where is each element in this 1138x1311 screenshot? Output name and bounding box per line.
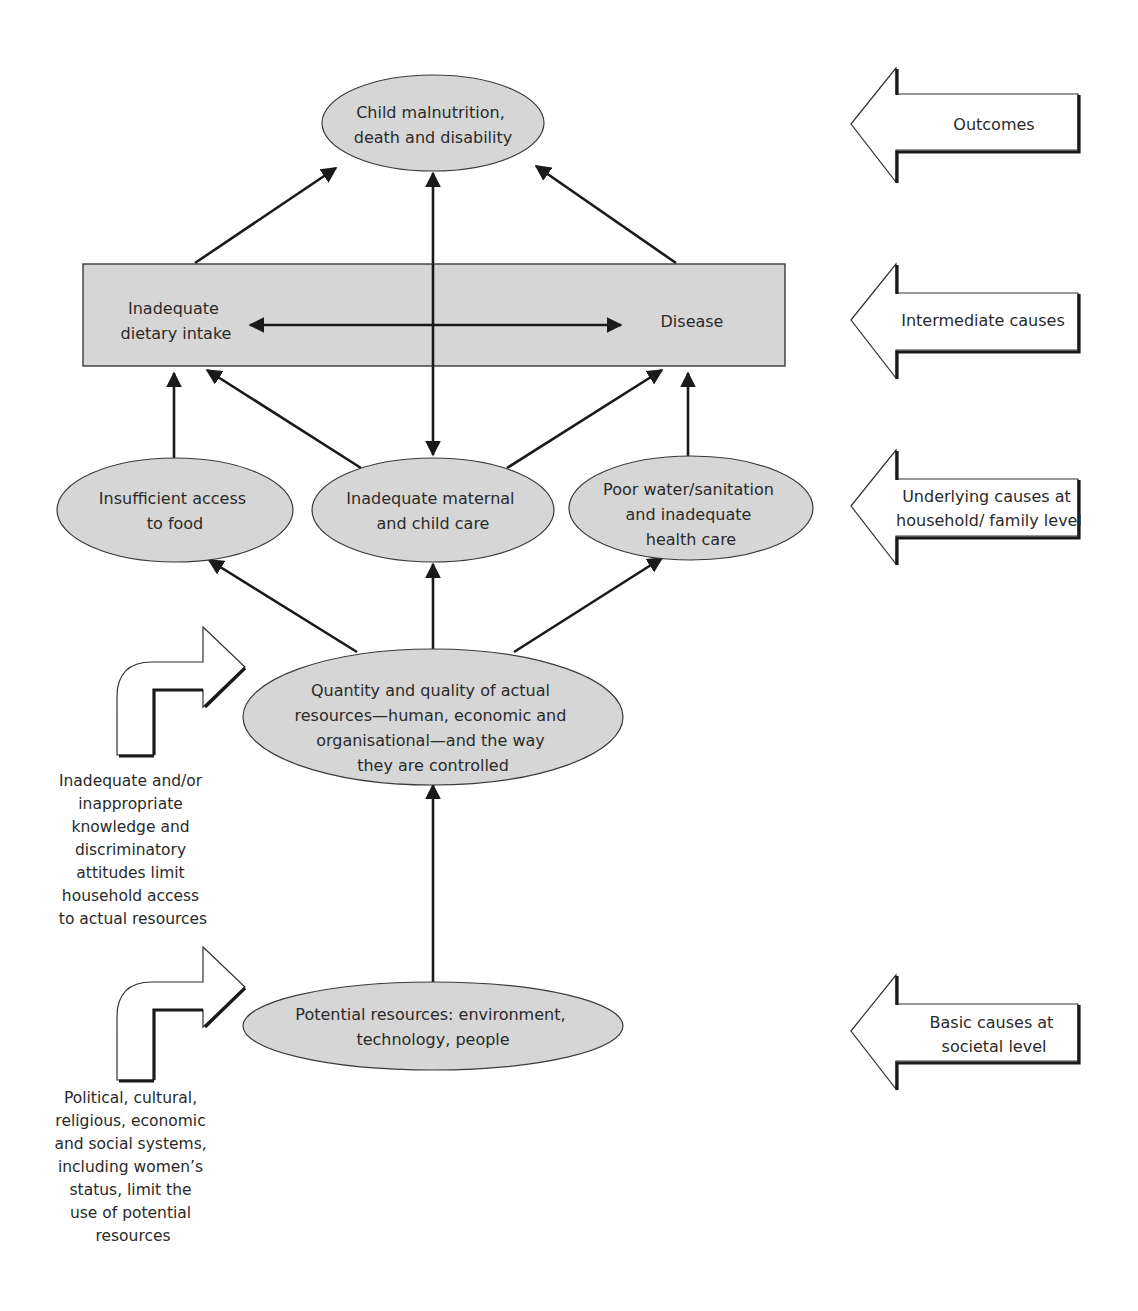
- bent-arrow-systems-icon: [117, 947, 245, 1081]
- node-outcome: Child malnutrition, death and disability: [322, 75, 544, 171]
- node-water-health: Poor water/sanitation and inadequate hea…: [569, 456, 813, 560]
- level-arrow-basic: Basic causes at societal level: [851, 975, 1079, 1090]
- edge-actual-to-water: [514, 558, 662, 652]
- level-arrow-underlying: Underlying causes at household/ family l…: [851, 450, 1082, 565]
- node-potential-resources: Potential resources: environment, techno…: [243, 982, 623, 1070]
- node-intermediate-box: Inadequate dietary intake Disease: [83, 264, 785, 366]
- node-maternal-care: Inadequate maternal and child care: [312, 458, 554, 562]
- edge-maternal-to-disease: [507, 370, 662, 468]
- level-label-intermediate: Intermediate causes: [901, 311, 1065, 330]
- edge-maternal-to-dietary: [207, 370, 361, 468]
- node-food-access: Insufficient access to food: [57, 458, 293, 562]
- edge-actual-to-food: [209, 560, 357, 652]
- bent-arrow-knowledge-icon: [117, 627, 245, 756]
- causal-framework-diagram: Child malnutrition, death and disability…: [0, 0, 1138, 1311]
- edge-disease-to-outcome: [536, 166, 676, 263]
- level-arrow-outcomes: Outcomes: [851, 68, 1079, 183]
- node-disease-text: Disease: [661, 312, 724, 331]
- side-note-systems: Political, cultural, religious, economic…: [54, 1089, 211, 1245]
- edge-dietary-to-outcome: [195, 168, 336, 263]
- level-arrow-intermediate: Intermediate causes: [851, 264, 1079, 379]
- level-label-outcomes: Outcomes: [953, 115, 1034, 134]
- node-actual-resources: Quantity and quality of actual resources…: [243, 649, 623, 785]
- side-note-knowledge: Inadequate and/or inappropriate knowledg…: [59, 772, 207, 928]
